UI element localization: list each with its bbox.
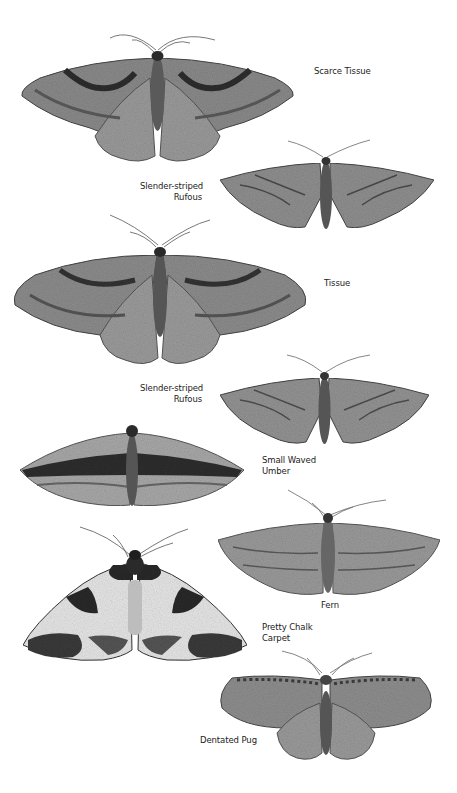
moth-illustration-tissue xyxy=(10,210,310,370)
label-scarce-tissue: Scarce Tissue xyxy=(314,66,371,77)
label-slender-striped-rufous-2: Slender-striped Rufous xyxy=(140,383,202,405)
pretty-chalk-carpet-moth-icon xyxy=(18,525,253,665)
label-small-waved-umber: Small Waved Umber xyxy=(262,455,316,477)
moth-illustration-pretty-chalk-carpet xyxy=(18,525,253,665)
label-slender-striped-rufous-1: Slender-striped Rufous xyxy=(140,181,202,203)
label-tissue: Tissue xyxy=(324,278,350,289)
label-dentated-pug: Dentated Pug xyxy=(200,735,257,746)
dentated-pug-moth-icon xyxy=(212,648,440,766)
label-pretty-chalk-carpet: Pretty Chalk Carpet xyxy=(262,622,313,644)
tissue-moth-icon xyxy=(10,210,310,370)
moth-illustration-dentated-pug xyxy=(212,648,440,766)
moth-identification-plate: Scarce Tissue Slender-striped Rufous xyxy=(0,0,457,793)
label-fern: Fern xyxy=(321,600,339,611)
